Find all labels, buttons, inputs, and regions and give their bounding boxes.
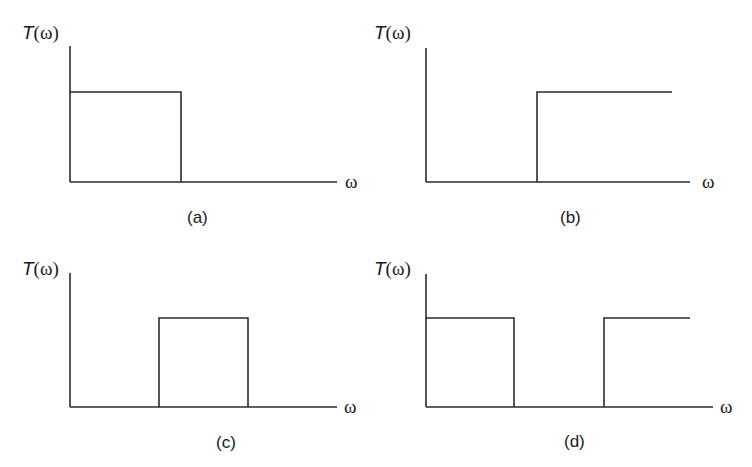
y-axis-label: T(ω) xyxy=(374,258,411,280)
x-axis-label: ω xyxy=(720,396,733,417)
low-pass-response-curve xyxy=(70,92,181,182)
high-pass-response-curve xyxy=(537,92,672,182)
filter-response-figure: T(ω) ω (a) T(ω) ω (b) T(ω) ω (c) T(ω) ω … xyxy=(0,0,752,467)
panel-caption: (c) xyxy=(216,433,236,452)
y-axis-label: T(ω) xyxy=(22,22,59,44)
x-axis-label: ω xyxy=(345,171,358,192)
y-axis-label: T(ω) xyxy=(374,22,411,44)
band-pass-response-curve xyxy=(159,318,248,407)
panel-b: T(ω) ω (b) xyxy=(374,22,715,227)
band-stop-upper-pass-segment xyxy=(604,318,690,407)
panel-d: T(ω) ω (d) xyxy=(374,258,733,451)
x-axis-label: ω xyxy=(344,396,357,417)
panel-caption: (a) xyxy=(187,208,208,227)
panel-c: T(ω) ω (c) xyxy=(22,258,357,452)
x-axis-label: ω xyxy=(702,171,715,192)
panel-caption: (d) xyxy=(564,432,585,451)
band-stop-lower-pass-segment xyxy=(426,318,514,407)
y-axis-label: T(ω) xyxy=(22,258,59,280)
panel-a: T(ω) ω (a) xyxy=(22,22,358,227)
panel-caption: (b) xyxy=(560,208,581,227)
